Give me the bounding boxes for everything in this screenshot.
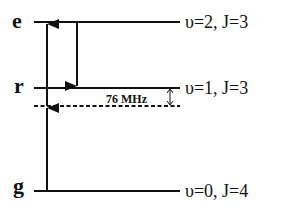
level-letter-g: g	[13, 173, 24, 198]
level-letter-r: r	[14, 73, 24, 98]
energy-level-diagram: e r g 76 MHz υ=2, J=3 υ=1, J=3 υ=0, J=4	[0, 0, 286, 212]
detuning-double-arrow-icon	[167, 89, 173, 105]
level-label-g: υ=0, J=4	[185, 181, 248, 201]
level-label-r: υ=1, J=3	[185, 78, 248, 98]
detuning-label: 76 MHz	[106, 92, 148, 106]
level-letter-e: e	[12, 8, 22, 33]
level-label-e: υ=2, J=3	[185, 12, 248, 32]
